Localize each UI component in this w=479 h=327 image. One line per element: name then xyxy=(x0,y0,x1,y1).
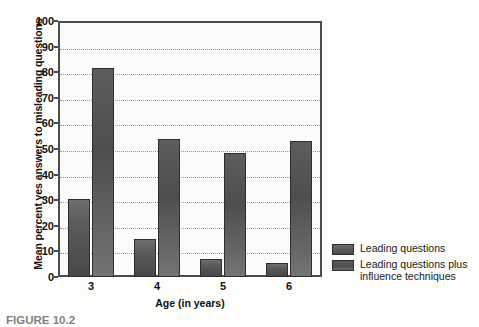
legend-swatch-icon-series-a xyxy=(332,244,354,255)
y-axis-tick-labels: 0102030405060708090100 xyxy=(0,0,54,327)
x-axis-tick-label-6: 6 xyxy=(269,280,309,292)
legend-label-series-b-line1: Leading questions plus xyxy=(360,258,467,270)
y-axis-tick-label: 50 xyxy=(2,143,54,155)
bar-series-b-age-5 xyxy=(224,153,246,277)
y-axis-tick-label: 100 xyxy=(2,15,54,27)
x-axis-tick-label-4: 4 xyxy=(137,280,177,292)
y-axis-tick-label: 10 xyxy=(2,245,54,257)
bar-series-a-age-4 xyxy=(134,239,156,277)
bar-series-b-age-6 xyxy=(290,141,312,277)
bar-series-a-age-6 xyxy=(266,263,288,277)
x-axis-tick-label-5: 5 xyxy=(203,280,243,292)
y-axis-tick-label: 80 xyxy=(2,66,54,78)
bar-series-b-age-3 xyxy=(92,68,114,277)
bar-series-a-age-3 xyxy=(68,199,90,277)
legend-swatch-icon-series-b xyxy=(332,260,354,271)
y-axis-tick-label: 90 xyxy=(2,41,54,53)
y-axis-tick-label: 60 xyxy=(2,117,54,129)
figure-container: Mean percent yes answers to misleading q… xyxy=(0,0,479,327)
y-axis-tick-label: 20 xyxy=(2,220,54,232)
y-axis-tick-label: 0 xyxy=(2,271,54,283)
y-axis-tick-label: 30 xyxy=(2,194,54,206)
figure-caption: FIGURE 10.2 xyxy=(6,314,476,327)
legend-item-leading-questions: Leading questions xyxy=(332,243,478,255)
x-axis-tick-label-3: 3 xyxy=(71,280,111,292)
figure-caption-label: FIGURE 10.2 xyxy=(6,314,75,326)
legend-label-series-b-line2: influence techniques xyxy=(360,270,456,282)
legend-label-series-a: Leading questions xyxy=(360,243,445,255)
y-axis-tick-label: 70 xyxy=(2,92,54,104)
y-axis-tick-label: 40 xyxy=(2,169,54,181)
bar-series-a-age-5 xyxy=(200,259,222,277)
legend-item-leading-questions-plus-influence: Leading questions plus influence techniq… xyxy=(332,259,478,282)
legend-label-series-b: Leading questions plus influence techniq… xyxy=(360,259,467,282)
x-axis-tick-labels: 3456 xyxy=(58,280,322,298)
x-axis-title: Age (in years) xyxy=(58,297,322,309)
bar-series-b-age-4 xyxy=(158,139,180,277)
bars-layer xyxy=(58,21,322,277)
chart-legend: Leading questions Leading questions plus… xyxy=(332,243,478,286)
